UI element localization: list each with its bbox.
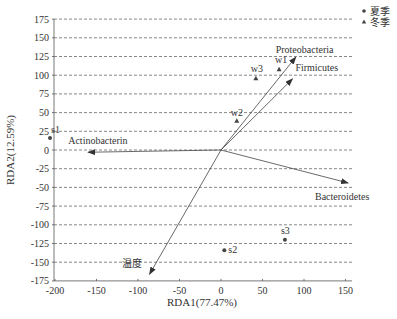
vector-label: Firmicutes: [295, 62, 338, 73]
summer-point: [283, 238, 287, 242]
y-tick-label: -25: [36, 163, 49, 174]
y-tick-label: 25: [39, 126, 49, 137]
y-axis-label: RDA2(12.59%): [4, 115, 17, 185]
point-label: s3: [281, 225, 290, 236]
y-tick-label: 75: [39, 88, 49, 99]
legend: 夏季冬季: [362, 6, 390, 28]
x-tick-label: -100: [129, 285, 147, 296]
vector-label: Actinobacterin: [68, 135, 127, 146]
legend-label: 冬季: [370, 16, 390, 28]
point-label: s2: [228, 244, 237, 255]
vector-arrow: [221, 150, 348, 183]
x-tick-label: -200: [46, 285, 64, 296]
y-tick-label: 50: [39, 107, 49, 118]
x-tick-label: 0: [219, 285, 224, 296]
x-tick-label: -150: [87, 285, 105, 296]
y-tick-label: -50: [36, 182, 49, 193]
y-tick-label: -75: [36, 201, 49, 212]
y-tick-label: -150: [31, 257, 49, 268]
y-tick-label: -125: [31, 238, 49, 249]
y-tick-label: 100: [34, 70, 49, 81]
x-axis-label: RDA1(77.47%): [167, 296, 237, 309]
legend-label: 夏季: [370, 6, 390, 17]
axes: 1751501251007550250-25-50-75-100-125-150…: [31, 14, 353, 296]
legend-circle-icon: [362, 9, 366, 13]
winter-point: [234, 118, 239, 123]
y-tick-label: 0: [44, 145, 49, 156]
y-tick-label: -100: [31, 219, 49, 230]
point-label: s1: [51, 124, 60, 135]
winter-point: [277, 67, 282, 72]
winter-point: [253, 76, 258, 81]
summer-point: [222, 248, 226, 252]
summer-point: [48, 136, 52, 140]
x-tick-label: 50: [258, 285, 268, 296]
rda-biplot: 1751501251007550250-25-50-75-100-125-150…: [0, 0, 397, 319]
vector-label: Bacteroidetes: [315, 191, 370, 202]
point-label: w3: [251, 63, 263, 74]
vectors: ProteobacteriaFirmicutesBacteroidetesAct…: [68, 44, 369, 274]
point-label: w1: [275, 54, 287, 65]
legend-triangle-icon: [362, 20, 366, 24]
point-label: w2: [231, 107, 243, 118]
y-tick-label: 175: [34, 14, 49, 25]
x-tick-label: 150: [338, 285, 353, 296]
vector-label: 温度: [122, 257, 142, 269]
x-tick-label: 100: [297, 285, 312, 296]
y-tick-label: 150: [34, 32, 49, 43]
x-tick-label: -50: [173, 285, 186, 296]
y-tick-label: 125: [34, 51, 49, 62]
